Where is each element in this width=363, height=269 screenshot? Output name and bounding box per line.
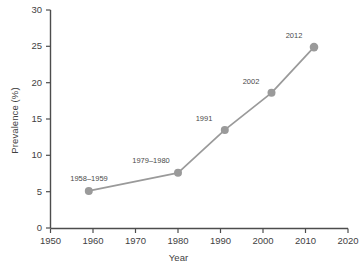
- y-tick-label-5: 5: [16, 186, 42, 197]
- data-point-1991: [221, 126, 229, 134]
- data-point-1959: [85, 187, 93, 195]
- point-label-2002: 2002: [231, 77, 271, 86]
- point-label-1979-1980: 1979–1980: [111, 156, 191, 165]
- x-axis-title: Year: [0, 252, 357, 263]
- x-tick-label-2020: 2020: [328, 235, 363, 246]
- y-axis-title: Prevalence (%): [9, 81, 20, 161]
- x-tick-label-2010: 2010: [286, 235, 326, 246]
- point-label-1991: 1991: [184, 114, 224, 123]
- x-tick-label-1990: 1990: [201, 235, 241, 246]
- y-tick-label-20: 20: [16, 77, 42, 88]
- y-tick-label-0: 0: [16, 222, 42, 233]
- y-tick-label-10: 10: [16, 149, 42, 160]
- x-tick-label-2000: 2000: [243, 235, 283, 246]
- point-label-1958-1959: 1958–1959: [49, 174, 129, 183]
- y-tick-label-25: 25: [16, 40, 42, 51]
- x-tick-label-1970: 1970: [116, 235, 156, 246]
- y-tick-label-30: 30: [16, 4, 42, 15]
- data-point-2012: [310, 43, 319, 52]
- x-tick-label-1980: 1980: [158, 235, 198, 246]
- point-label-2012: 2012: [274, 31, 314, 40]
- x-tick-label-1960: 1960: [73, 235, 113, 246]
- y-tick-label-15: 15: [16, 113, 42, 124]
- data-point-2002: [268, 89, 276, 97]
- data-point-1980: [174, 169, 182, 177]
- x-tick-label-1950: 1950: [31, 235, 71, 246]
